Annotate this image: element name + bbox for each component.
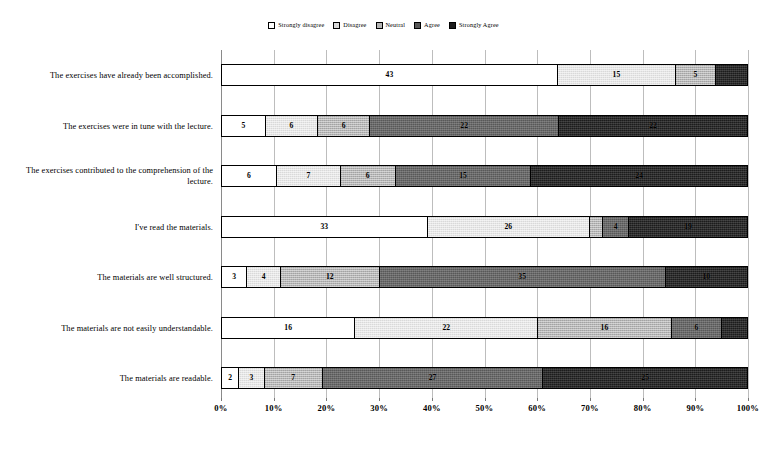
legend-entry: Neutral [376,22,406,29]
bar-segment: 3 [239,368,264,388]
x-axis-tick-mark [221,398,222,401]
bar-segment-value: 43 [386,71,394,79]
bar-segment-value: 3 [250,374,254,382]
bar-segment: 43 [222,65,558,85]
bar-segment [722,318,747,338]
bar-segment: 27 [323,368,544,388]
bar-segment: 35 [380,267,666,287]
bar-segment-value: 5 [241,122,245,130]
x-axis-tick-label: 0% [214,403,227,413]
x-axis-tick-label: 90% [686,403,704,413]
legend-swatch-icon [268,22,275,29]
bar-segment [590,217,603,237]
bar-segment: 5 [222,116,266,136]
bar-segment: 19 [629,217,747,237]
bar-segment-value: 27 [429,374,437,382]
bar-segment-value: 2 [228,374,232,382]
bar-segment: 16 [222,318,355,338]
category-label: The exercises contributed to the compreh… [8,165,213,187]
category-label: The exercises were in tune with the lect… [8,121,213,132]
bar-segment-value: 16 [601,324,609,332]
bar-segment-value: 33 [320,223,328,231]
bar-segment: 24 [531,166,747,186]
bar-segment: 26 [428,217,590,237]
x-axis-tick-mark [643,398,644,401]
legend-entry: Agree [414,22,440,29]
x-axis-tick-label: 20% [317,403,335,413]
category-label: The exercises have already been accompli… [8,70,213,81]
x-axis-tick-label: 60% [528,403,546,413]
bar-segment-value: 19 [684,223,692,231]
bar-segment-value: 22 [649,122,657,130]
category-axis-labels: The exercises have already been accompli… [8,50,217,400]
legend-swatch-icon [333,22,340,29]
legend-swatch-icon [414,22,421,29]
stacked-bar: 2372725 [221,367,748,389]
bar-segment [716,65,747,85]
x-axis-tick-label: 30% [370,403,388,413]
stacked-bar: 43155 [221,64,748,86]
bar-segment-value: 4 [614,223,618,231]
x-axis-tick-mark [748,398,749,401]
bar-segment: 6 [341,166,396,186]
stacked-bar: 1622166 [221,317,748,339]
category-label: The materials are well structured. [8,272,213,283]
legend-swatch-icon [449,22,456,29]
bar-segment: 6 [222,166,277,186]
bar-segment: 25 [543,368,747,388]
bar-segment: 6 [266,116,318,136]
bar-segment-value: 25 [641,374,649,382]
bar-segment-value: 22 [460,122,468,130]
bar-segment-value: 16 [284,324,292,332]
bar-segment-value: 24 [635,172,643,180]
bar-segment-value: 7 [306,172,310,180]
bar-segment: 22 [370,116,559,136]
gridline [748,50,749,400]
bar-segment-value: 26 [504,223,512,231]
bar-segment-value: 6 [366,172,370,180]
bar-segment: 10 [666,267,747,287]
stacked-bar: 3326419 [221,216,748,238]
bar-segment: 15 [558,65,676,85]
legend-entry: Strongly disagree [268,22,324,29]
x-axis-tick-label: 50% [476,403,494,413]
bar-segment-value: 6 [694,324,698,332]
bar-segment: 2 [222,368,239,388]
bar-segment: 7 [265,368,323,388]
x-axis-tick-mark [695,398,696,401]
legend-label: Disagree [343,22,366,28]
bar-segment-value: 3 [232,273,236,281]
bar-segment: 22 [559,116,747,136]
bar-segment: 3 [222,267,247,287]
x-axis-tick-mark [590,398,591,401]
bar-segment: 16 [538,318,671,338]
bar-segment: 5 [676,65,716,85]
bar-segment: 15 [396,166,532,186]
bar-segment: 4 [603,217,629,237]
legend-label: Agree [424,22,440,28]
bar-segment-value: 4 [262,273,266,281]
bar-segment: 6 [672,318,723,338]
stacked-bar: 34123510 [221,266,748,288]
bar-segment-value: 7 [291,374,295,382]
x-axis-tick-mark [274,398,275,401]
plot-area: The exercises have already been accompli… [0,50,767,405]
legend-entry: Disagree [333,22,366,29]
stacked-bar: 5662222 [221,115,748,137]
bar-segment-value: 12 [326,273,334,281]
bar-segment-value: 15 [613,71,621,79]
x-axis-tick-label: 80% [634,403,652,413]
bar-segment-value: 22 [442,324,450,332]
legend-label: Strongly disagree [278,22,324,28]
category-label: The materials are not easily understanda… [8,323,213,334]
x-axis-tick-mark [379,398,380,401]
x-axis-tick-label: 40% [423,403,441,413]
bar-segment-value: 10 [702,273,710,281]
bars-and-gridlines: 4315556622226761524332641934123510162216… [221,50,748,400]
bar-segment: 22 [355,318,538,338]
bar-segment-value: 15 [459,172,467,180]
bar-segment: 7 [277,166,341,186]
legend-swatch-icon [376,22,383,29]
bar-segment: 4 [247,267,281,287]
x-axis-tick-label: 10% [265,403,283,413]
